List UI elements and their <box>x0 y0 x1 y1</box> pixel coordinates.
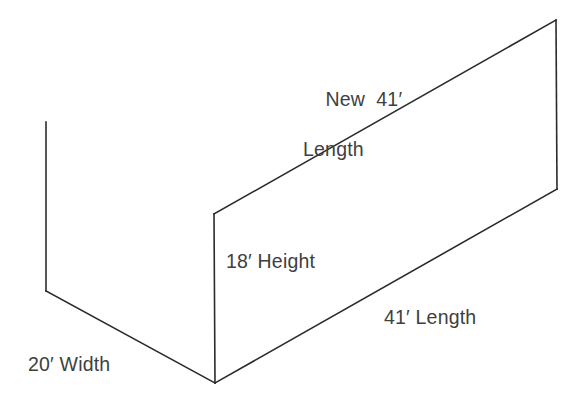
label-new-length-line2: Length <box>303 137 402 162</box>
label-width: 20′ Width <box>28 352 110 377</box>
wall-height-vertical-edge <box>214 214 215 383</box>
label-height: 18′ Height <box>226 249 315 274</box>
diagram-drawing <box>0 0 584 403</box>
label-length: 41′ Length <box>384 305 476 330</box>
wall-bottom-length-edge <box>215 189 557 383</box>
wall-far-right-vertical-edge <box>556 20 557 189</box>
wall-dimension-diagram: New 41′ Length 18′ Height 41′ Length 20′… <box>0 0 584 403</box>
label-new-length-line1: New 41′ <box>325 88 402 110</box>
label-new-length: New 41′ Length <box>303 62 402 212</box>
